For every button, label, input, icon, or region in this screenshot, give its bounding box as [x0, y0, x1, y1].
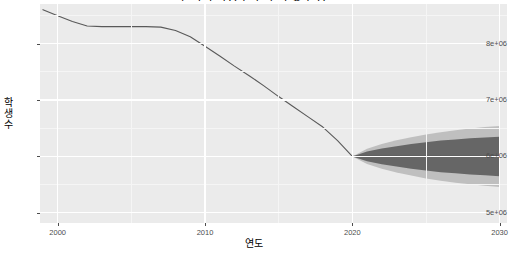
gridline-major-vertical [57, 4, 58, 223]
gridline-major-vertical [499, 4, 500, 223]
gridline-minor-horizontal [40, 128, 507, 129]
chart-title: 한국의 학령 인구 추이 및 전망 [0, 0, 507, 1]
y-axis-title: 학생수 [2, 97, 14, 130]
gridline-major-horizontal [40, 156, 507, 157]
y-tick-label: 5e+06 [469, 209, 507, 217]
y-tick-mark [37, 44, 40, 45]
y-tick-mark [37, 213, 40, 214]
gridline-major-horizontal [40, 43, 507, 44]
x-tick-label: 2010 [180, 228, 230, 237]
x-tick-mark [352, 223, 353, 226]
plot-svg [40, 4, 507, 223]
x-axis-title: 연도 [0, 238, 507, 249]
y-tick-mark [37, 100, 40, 101]
gridline-major-horizontal [40, 212, 507, 213]
y-tick-mark [37, 156, 40, 157]
gridline-minor-horizontal [40, 15, 507, 16]
y-axis-title-char: 수 [2, 119, 14, 130]
gridline-minor-vertical [278, 4, 279, 223]
series-line-historical [43, 10, 352, 157]
y-tick-label: 6e+06 [469, 152, 507, 160]
x-tick-label: 2020 [327, 228, 377, 237]
plot-panel [40, 4, 507, 223]
x-tick-mark [500, 223, 501, 226]
gridline-minor-vertical [131, 4, 132, 223]
gridline-major-horizontal [40, 99, 507, 100]
gridline-minor-vertical [426, 4, 427, 223]
gridline-major-vertical [204, 4, 205, 223]
y-axis-title-char: 학 [2, 97, 14, 108]
gridline-minor-horizontal [40, 71, 507, 72]
x-tick-label: 2030 [475, 228, 513, 237]
x-tick-mark [205, 223, 206, 226]
y-tick-label: 8e+06 [469, 40, 507, 48]
y-axis-title-char: 생 [2, 108, 14, 119]
x-tick-mark [58, 223, 59, 226]
gridline-major-vertical [352, 4, 353, 223]
x-tick-label: 2000 [33, 228, 83, 237]
y-tick-label: 7e+06 [469, 96, 507, 104]
gridline-minor-horizontal [40, 184, 507, 185]
